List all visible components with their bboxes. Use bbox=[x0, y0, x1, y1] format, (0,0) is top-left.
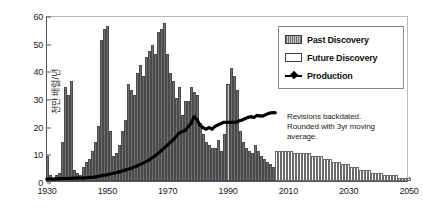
annotation-line-2: Rounded with 3yr moving bbox=[287, 122, 415, 132]
production-point-1979 bbox=[192, 115, 195, 118]
chart-container: 천만 배럴/년 0102030405060 193019501970199020… bbox=[0, 0, 423, 220]
production-line-path bbox=[47, 113, 275, 179]
production-point-1994 bbox=[237, 119, 240, 122]
production-point-1999 bbox=[252, 116, 255, 119]
legend-swatch-past-discovery bbox=[285, 35, 302, 44]
production-point-1980 bbox=[195, 118, 198, 121]
production-point-2003 bbox=[264, 113, 267, 116]
y-tick-label: 40 bbox=[33, 67, 43, 77]
y-tick-label: 20 bbox=[33, 123, 43, 133]
production-point-1992 bbox=[231, 121, 234, 124]
legend-label-past-discovery: Past Discovery bbox=[307, 35, 369, 45]
x-tick-label: 1930 bbox=[37, 186, 56, 196]
production-point-1962 bbox=[141, 162, 144, 165]
y-tick-label: 30 bbox=[33, 95, 43, 105]
production-point-1995 bbox=[240, 118, 243, 121]
y-tick-label: 50 bbox=[33, 40, 43, 50]
production-point-2000 bbox=[255, 114, 258, 117]
production-point-1954 bbox=[117, 170, 120, 173]
legend-item-future-discovery: Future Discovery bbox=[285, 50, 397, 65]
production-point-1930 bbox=[45, 178, 48, 181]
production-point-1932 bbox=[51, 178, 54, 181]
x-tick-label: 2050 bbox=[399, 186, 418, 196]
y-tick-label: 60 bbox=[33, 12, 43, 22]
production-point-1972 bbox=[171, 138, 174, 141]
production-point-2006 bbox=[273, 111, 276, 114]
production-point-1991 bbox=[228, 121, 231, 124]
production-point-1948 bbox=[99, 174, 102, 177]
x-tick-label: 2030 bbox=[339, 186, 358, 196]
production-point-2001 bbox=[258, 114, 261, 117]
production-point-1976 bbox=[183, 129, 186, 132]
x-tick-label: 1970 bbox=[158, 186, 177, 196]
production-point-1938 bbox=[69, 177, 72, 180]
production-point-1982 bbox=[201, 126, 204, 129]
production-point-1993 bbox=[234, 121, 237, 124]
production-point-1952 bbox=[111, 172, 114, 175]
production-point-1956 bbox=[123, 168, 126, 171]
production-point-1990 bbox=[225, 121, 228, 124]
production-point-1974 bbox=[177, 132, 180, 135]
x-tick-label: 1990 bbox=[218, 186, 237, 196]
production-point-2005 bbox=[270, 111, 273, 114]
production-point-1984 bbox=[207, 126, 210, 129]
production-point-1986 bbox=[213, 125, 216, 128]
legend-swatch-production bbox=[285, 71, 302, 80]
production-point-1997 bbox=[246, 116, 249, 119]
production-point-1988 bbox=[219, 122, 222, 125]
y-tick-mark bbox=[47, 183, 51, 184]
production-point-2004 bbox=[267, 112, 270, 115]
legend-label-future-discovery: Future Discovery bbox=[307, 53, 377, 63]
annotation-line-3: average. bbox=[287, 132, 415, 142]
legend-item-past-discovery: Past Discovery bbox=[285, 32, 397, 47]
production-point-1942 bbox=[81, 176, 84, 179]
production-point-2002 bbox=[261, 114, 264, 117]
production-point-1960 bbox=[135, 164, 138, 167]
y-tick-label: 10 bbox=[33, 150, 43, 160]
x-tick-label: 2010 bbox=[279, 186, 298, 196]
production-point-1983 bbox=[204, 127, 207, 130]
production-point-1964 bbox=[147, 158, 150, 161]
production-point-1996 bbox=[243, 117, 246, 120]
bar-future-2050 bbox=[407, 178, 410, 181]
production-point-1981 bbox=[198, 123, 201, 126]
production-point-1950 bbox=[105, 173, 108, 176]
legend-label-production: Production bbox=[307, 71, 353, 81]
production-point-1998 bbox=[249, 115, 252, 118]
production-point-1970 bbox=[165, 144, 168, 147]
chart-annotation: Revisions backdated. Rounded with 3yr mo… bbox=[287, 112, 415, 142]
production-point-1978 bbox=[189, 122, 192, 125]
production-point-1989 bbox=[222, 121, 225, 124]
production-point-1985 bbox=[210, 127, 213, 130]
production-point-1966 bbox=[153, 154, 156, 157]
production-point-1934 bbox=[57, 177, 60, 180]
production-point-1944 bbox=[87, 176, 90, 179]
annotation-line-1: Revisions backdated. bbox=[287, 112, 415, 122]
x-tick-label: 1950 bbox=[98, 186, 117, 196]
production-point-1958 bbox=[129, 167, 132, 170]
production-point-1936 bbox=[63, 177, 66, 180]
chart-legend: Past Discovery Future Discovery Producti… bbox=[278, 26, 404, 89]
legend-swatch-future-discovery bbox=[285, 53, 302, 62]
production-point-1946 bbox=[93, 175, 96, 178]
production-point-1940 bbox=[75, 176, 78, 179]
legend-item-production: Production bbox=[285, 68, 397, 83]
production-point-1968 bbox=[159, 149, 162, 152]
production-point-1987 bbox=[216, 123, 219, 126]
